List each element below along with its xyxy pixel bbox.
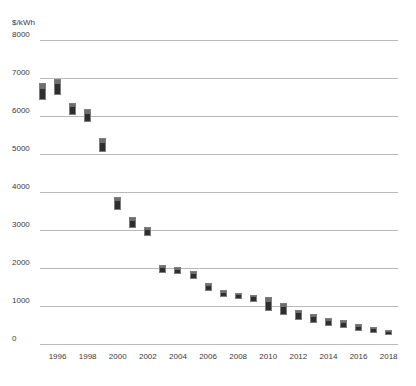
range-bar-upper-segment xyxy=(70,104,75,107)
gridline xyxy=(40,230,398,231)
gridline xyxy=(40,306,398,307)
range-bar-upper-segment xyxy=(55,80,60,85)
range-bar xyxy=(280,303,287,315)
y-axis-tick-label: 3000 xyxy=(12,220,30,229)
range-bar xyxy=(265,297,272,311)
range-bar-upper-segment xyxy=(85,110,90,113)
range-bar xyxy=(129,217,136,228)
y-axis-tick-label: 6000 xyxy=(12,106,30,115)
range-bar-upper-segment xyxy=(221,291,226,293)
y-axis-tick-label: 7000 xyxy=(12,68,30,77)
chart-container: $/kWh 010002000300040005000600070008000 … xyxy=(0,0,416,386)
gridline xyxy=(40,154,398,155)
gridline xyxy=(40,40,398,41)
gridline xyxy=(40,78,398,79)
range-bar xyxy=(84,109,91,122)
gridline xyxy=(40,268,398,269)
y-axis-tick-label: 8000 xyxy=(12,30,30,39)
range-bar xyxy=(220,290,227,297)
range-bar xyxy=(205,283,212,291)
y-axis-tick-label: 0 xyxy=(12,334,16,343)
range-bar-upper-segment xyxy=(145,228,150,230)
range-bar xyxy=(340,320,347,328)
gridline xyxy=(40,116,398,117)
range-bar xyxy=(190,271,197,279)
range-bar-upper-segment xyxy=(266,298,271,302)
range-bar-upper-segment xyxy=(251,296,256,298)
range-bar-upper-segment xyxy=(115,198,120,202)
range-bar-upper-segment xyxy=(281,304,286,307)
range-bar xyxy=(69,103,76,116)
range-bar-upper-segment xyxy=(236,294,241,295)
range-bar xyxy=(174,267,181,274)
range-bar xyxy=(54,79,61,95)
range-bar-upper-segment xyxy=(130,218,135,221)
range-bar xyxy=(385,330,392,336)
gridline xyxy=(40,344,398,345)
range-bar-upper-segment xyxy=(160,266,165,268)
range-bar xyxy=(250,295,257,303)
range-bar xyxy=(235,293,242,299)
range-bar xyxy=(39,83,46,100)
range-bar xyxy=(295,310,302,320)
range-bar xyxy=(310,314,317,323)
range-bar xyxy=(355,324,362,331)
range-bar-upper-segment xyxy=(341,321,346,323)
range-bar-upper-segment xyxy=(311,315,316,317)
range-bar xyxy=(144,227,151,236)
range-bar xyxy=(99,138,106,152)
y-axis-tick-label: 4000 xyxy=(12,182,30,191)
range-bar-upper-segment xyxy=(100,139,105,143)
range-bar xyxy=(325,318,332,326)
x-axis-tick-label: 2018 xyxy=(371,352,407,361)
range-bar xyxy=(370,327,377,333)
range-bar-upper-segment xyxy=(356,325,361,327)
range-bar-upper-segment xyxy=(386,331,391,332)
y-axis-title: $/kWh xyxy=(12,18,35,27)
range-bar-upper-segment xyxy=(296,311,301,314)
y-axis-tick-label: 1000 xyxy=(12,296,30,305)
range-bar-upper-segment xyxy=(326,319,331,321)
y-axis-tick-label: 2000 xyxy=(12,258,30,267)
range-bar-upper-segment xyxy=(371,328,376,329)
gridline xyxy=(40,192,398,193)
range-bar-upper-segment xyxy=(191,272,196,274)
range-bar-upper-segment xyxy=(206,284,211,286)
range-bar-upper-segment xyxy=(175,268,180,270)
range-bar xyxy=(114,197,121,211)
range-bar-upper-segment xyxy=(40,84,45,89)
y-axis-tick-label: 5000 xyxy=(12,144,30,153)
range-bar xyxy=(159,265,166,273)
